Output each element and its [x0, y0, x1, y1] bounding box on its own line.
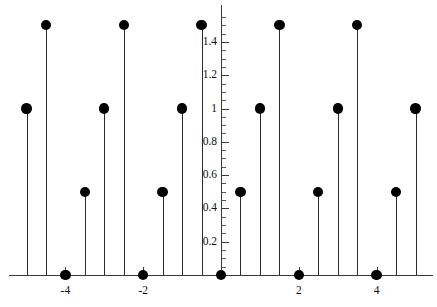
y-axis-major-tick	[222, 242, 229, 243]
data-point-marker	[216, 270, 226, 280]
y-axis-minor-tick	[222, 17, 226, 18]
stem-line	[85, 192, 86, 275]
stem-line	[124, 25, 125, 275]
y-axis-major-tick	[222, 208, 229, 209]
data-point-marker	[255, 103, 265, 113]
y-axis-tick-label: 0.2	[179, 235, 217, 247]
data-point-marker	[41, 20, 51, 30]
data-point-marker	[313, 187, 323, 197]
x-axis-tick-label: -4	[45, 284, 85, 296]
data-point-marker	[119, 20, 129, 30]
stem-line	[260, 109, 261, 276]
y-axis-tick-label: 0.8	[179, 135, 217, 147]
y-axis-minor-tick	[222, 183, 226, 184]
y-axis-tick-label: 1.2	[179, 68, 217, 80]
y-axis-major-tick	[222, 175, 229, 176]
data-point-marker	[371, 270, 381, 280]
stem-line	[202, 25, 203, 275]
y-axis-minor-tick	[222, 217, 226, 218]
stem-line	[182, 109, 183, 276]
stem-line	[240, 192, 241, 275]
data-point-marker	[99, 103, 109, 113]
data-point-marker	[177, 103, 187, 113]
stem-line	[279, 25, 280, 275]
data-point-marker	[410, 103, 420, 113]
y-axis-minor-tick	[222, 267, 226, 268]
y-axis-minor-tick	[222, 225, 226, 226]
stem-line	[357, 25, 358, 275]
x-axis-tick-label: 4	[357, 284, 397, 296]
y-axis-line	[221, 5, 222, 275]
data-point-marker	[21, 103, 31, 113]
stem-line	[27, 109, 28, 276]
data-point-marker	[80, 187, 90, 197]
data-point-marker	[138, 270, 148, 280]
x-axis-tick-label: 2	[279, 284, 319, 296]
data-point-marker	[196, 20, 206, 30]
data-point-marker	[274, 20, 284, 30]
stem-line	[163, 192, 164, 275]
y-axis-minor-tick	[222, 117, 226, 118]
data-point-marker	[60, 270, 70, 280]
y-axis-minor-tick	[222, 192, 226, 193]
stem-line	[104, 109, 105, 276]
x-axis-tick-label: -2	[123, 284, 163, 296]
y-axis-minor-tick	[222, 150, 226, 151]
y-axis-minor-tick	[222, 167, 226, 168]
stem-line	[46, 25, 47, 275]
data-point-marker	[333, 103, 343, 113]
stem-line	[416, 109, 417, 276]
y-axis-minor-tick	[222, 100, 226, 101]
y-axis-major-tick	[222, 142, 229, 143]
y-axis-major-tick	[222, 75, 229, 76]
y-axis-minor-tick	[222, 258, 226, 259]
y-axis-minor-tick	[222, 84, 226, 85]
data-point-marker	[352, 20, 362, 30]
y-axis-minor-tick	[222, 50, 226, 51]
data-point-marker	[391, 187, 401, 197]
y-axis-minor-tick	[222, 158, 226, 159]
y-axis-minor-tick	[222, 34, 226, 35]
y-axis-minor-tick	[222, 59, 226, 60]
data-point-marker	[157, 187, 167, 197]
data-point-marker	[235, 187, 245, 197]
y-axis-minor-tick	[222, 92, 226, 93]
y-axis-minor-tick	[222, 67, 226, 68]
stem-line	[396, 192, 397, 275]
data-point-marker	[294, 270, 304, 280]
y-axis-tick-label: 1.4	[179, 35, 217, 47]
y-axis-minor-tick	[222, 233, 226, 234]
y-axis-minor-tick	[222, 133, 226, 134]
stem-line	[318, 192, 319, 275]
y-axis-major-tick	[222, 42, 229, 43]
y-axis-major-tick	[222, 109, 229, 110]
stem-line	[338, 109, 339, 276]
stem-plot: -4-2240.20.40.60.811.21.4	[0, 0, 437, 307]
y-axis-minor-tick	[222, 125, 226, 126]
y-axis-tick-label: 0.4	[179, 201, 217, 213]
y-axis-minor-tick	[222, 250, 226, 251]
y-axis-minor-tick	[222, 25, 226, 26]
y-axis-minor-tick	[222, 200, 226, 201]
y-axis-tick-label: 0.6	[179, 168, 217, 180]
